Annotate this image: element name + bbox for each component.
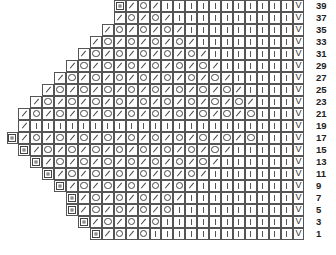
yarn-over-circle-icon (197, 132, 209, 144)
knit-bar-icon (245, 228, 257, 240)
k2tog-slash-icon (42, 156, 54, 168)
k2tog-slash-icon (138, 132, 150, 144)
knit-bar-icon (281, 132, 293, 144)
k2tog-slash-icon (150, 204, 162, 216)
knit-bar-icon (245, 180, 257, 192)
knit-bar-icon (221, 48, 233, 60)
k2tog-slash-icon (78, 204, 90, 216)
knit-bar-icon (209, 216, 221, 228)
knit-bar-icon (185, 120, 197, 132)
knit-bar-icon (209, 168, 221, 180)
knit-bar-icon (257, 144, 269, 156)
k2tog-slash-icon (66, 156, 78, 168)
knit-bar-icon (233, 216, 245, 228)
yarn-over-circle-icon (233, 96, 245, 108)
yarn-over-circle-icon (90, 48, 102, 60)
k2tog-slash-icon (114, 108, 126, 120)
k2tog-slash-icon (138, 216, 150, 228)
k2tog-slash-icon (138, 84, 150, 96)
k2tog-slash-icon (138, 156, 150, 168)
knit-bar-icon (197, 228, 209, 240)
knit-bar-icon (185, 24, 197, 36)
knit-bar-icon (209, 12, 221, 24)
knit-bar-icon (161, 120, 173, 132)
yarn-over-circle-icon (161, 192, 173, 204)
knit-bar-icon (126, 120, 138, 132)
yarn-over-circle-icon (42, 96, 54, 108)
k2tog-slash-icon (173, 24, 185, 36)
yarn-over-circle-icon (126, 84, 138, 96)
k2tog-slash-icon (66, 180, 78, 192)
k2tog-slash-icon (126, 144, 138, 156)
knit-bar-icon (245, 156, 257, 168)
slip-v-icon: V (293, 12, 305, 24)
knit-bar-icon (221, 120, 233, 132)
yarn-over-circle-icon (138, 72, 150, 84)
knit-bar-icon (185, 192, 197, 204)
k2tog-slash-icon (90, 216, 102, 228)
knit-bar-icon (233, 48, 245, 60)
slip-v-icon: V (293, 132, 305, 144)
knit-bar-icon (269, 84, 281, 96)
yarn-over-circle-icon (150, 156, 162, 168)
k2tog-slash-icon (102, 24, 114, 36)
knit-bar-icon (269, 180, 281, 192)
yarn-over-circle-icon (114, 72, 126, 84)
yarn-over-circle-icon (209, 72, 221, 84)
yarn-over-circle-icon (102, 216, 114, 228)
knit-bar-icon (281, 72, 293, 84)
slip-v-icon: V (293, 36, 305, 48)
knit-bar-icon (245, 192, 257, 204)
k2tog-slash-icon (102, 96, 114, 108)
knit-bar-icon (197, 192, 209, 204)
k2tog-slash-icon (102, 228, 114, 240)
yarn-over-circle-icon (197, 84, 209, 96)
knit-bar-icon (233, 120, 245, 132)
yarn-over-circle-icon (245, 132, 257, 144)
knit-bar-icon (281, 48, 293, 60)
knit-bar-icon (221, 12, 233, 24)
row-number-label: 35 (316, 24, 336, 36)
yarn-over-circle-icon (114, 204, 126, 216)
yarn-over-circle-icon (102, 84, 114, 96)
k2tog-slash-icon (150, 168, 162, 180)
yarn-over-circle-icon (102, 60, 114, 72)
knit-bar-icon (221, 192, 233, 204)
yarn-over-circle-icon (138, 204, 150, 216)
k2tog-slash-icon (54, 144, 66, 156)
slip-v-icon: V (293, 0, 305, 12)
row-number-label: 27 (316, 72, 336, 84)
knit-bar-icon (161, 228, 173, 240)
knit-bar-icon (245, 144, 257, 156)
knit-bar-icon (209, 192, 221, 204)
knit-bar-icon (233, 12, 245, 24)
k2tog-slash-icon (221, 96, 233, 108)
slip-v-icon: V (293, 24, 305, 36)
knit-bar-icon (197, 120, 209, 132)
knit-bar-icon (78, 120, 90, 132)
yarn-over-circle-icon (138, 228, 150, 240)
k2tog-slash-icon (138, 60, 150, 72)
yarn-over-circle-icon (126, 132, 138, 144)
k2tog-slash-icon (42, 84, 54, 96)
yarn-over-circle-icon (54, 108, 66, 120)
knit-bar-icon (269, 132, 281, 144)
knit-bar-icon (257, 12, 269, 24)
knit-bar-icon (221, 180, 233, 192)
k2tog-slash-icon (114, 132, 126, 144)
yarn-over-circle-icon (126, 12, 138, 24)
yarn-over-circle-icon (126, 108, 138, 120)
knit-bar-icon (221, 60, 233, 72)
k2tog-slash-icon (90, 60, 102, 72)
yarn-over-circle-icon (138, 168, 150, 180)
knit-bar-icon (281, 12, 293, 24)
knit-bar-icon (209, 228, 221, 240)
knit-bar-icon (269, 204, 281, 216)
k2tog-slash-icon (138, 108, 150, 120)
knit-bar-icon (269, 216, 281, 228)
knit-bar-icon (281, 84, 293, 96)
k2tog-slash-icon (54, 168, 66, 180)
row-number-label: 29 (316, 60, 336, 72)
k2tog-slash-icon (126, 48, 138, 60)
slip-v-icon: V (293, 156, 305, 168)
